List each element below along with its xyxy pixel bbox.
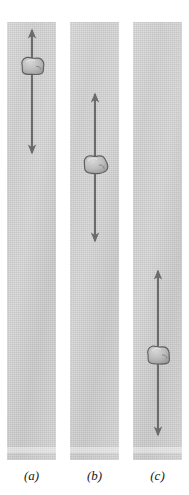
rock-column-c: [133, 22, 182, 460]
panel-b: (b): [63, 0, 126, 495]
panel-label-b: (b): [63, 468, 126, 484]
rock-column-b: [70, 22, 119, 460]
rock-column-a: [7, 22, 56, 460]
panel-label-c: (c): [126, 468, 189, 484]
panel-a: (a): [0, 0, 63, 495]
column-seam-a: [7, 447, 56, 453]
figure-canvas: (a) (b): [0, 0, 189, 495]
column-seam-c: [133, 447, 182, 453]
panel-c: (c): [126, 0, 189, 495]
panel-label-a: (a): [0, 468, 63, 484]
column-seam-b: [70, 447, 119, 453]
